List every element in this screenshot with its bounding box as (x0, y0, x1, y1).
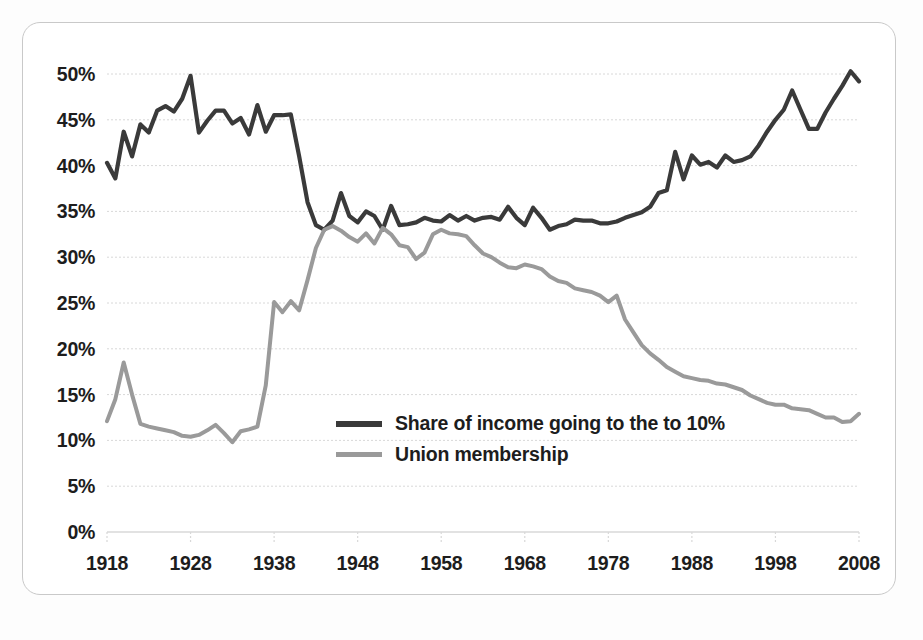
y-tick-label: 35% (35, 200, 95, 223)
y-tick-label: 45% (35, 109, 95, 132)
legend-item-union-membership: Union membership (336, 439, 725, 470)
line-chart-plot (0, 0, 923, 640)
y-tick-label: 30% (35, 246, 95, 269)
x-tick-label: 1998 (740, 552, 810, 575)
x-tick-label: 1928 (156, 552, 226, 575)
legend-item-income-share: Share of income going to the to 10% (336, 408, 725, 439)
y-tick-label: 0% (35, 521, 95, 544)
x-tick-label: 1978 (573, 552, 643, 575)
legend-swatch-union-membership (336, 452, 382, 457)
x-tick-marks-group (107, 532, 859, 544)
y-tick-label: 10% (35, 429, 95, 452)
chart-legend: Share of income going to the to 10% Unio… (336, 408, 725, 470)
chart-page: 0%5%10%15%20%25%30%35%40%45%50% 19181928… (0, 0, 923, 640)
x-tick-label: 1968 (490, 552, 560, 575)
legend-swatch-income-share (336, 421, 382, 427)
y-tick-label: 50% (35, 63, 95, 86)
x-tick-label: 2008 (824, 552, 894, 575)
y-tick-label: 25% (35, 292, 95, 315)
x-tick-label: 1958 (406, 552, 476, 575)
y-tick-label: 20% (35, 338, 95, 361)
legend-label-union-membership: Union membership (395, 443, 568, 466)
y-tick-label: 5% (35, 475, 95, 498)
x-tick-label: 1938 (239, 552, 309, 575)
x-tick-label: 1988 (657, 552, 727, 575)
x-tick-label: 1918 (72, 552, 142, 575)
legend-label-income-share: Share of income going to the to 10% (395, 412, 725, 435)
y-tick-label: 15% (35, 384, 95, 407)
y-tick-label: 40% (35, 155, 95, 178)
series-line-income-share (107, 71, 859, 229)
x-tick-label: 1948 (323, 552, 393, 575)
